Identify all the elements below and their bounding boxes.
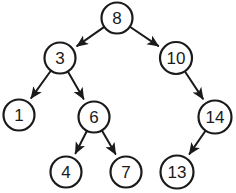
tree-canvas: 831016144713 <box>0 0 236 193</box>
tree-node-6: 6 <box>79 102 110 133</box>
binary-tree-diagram: 831016144713 <box>0 0 236 193</box>
tree-node-1: 1 <box>4 100 35 131</box>
tree-node-8: 8 <box>102 3 133 34</box>
node-label-1: 1 <box>14 106 23 125</box>
tree-node-10: 10 <box>160 42 192 74</box>
tree-node-7: 7 <box>111 157 142 188</box>
node-label-3: 3 <box>55 49 64 68</box>
node-label-10: 10 <box>167 49 186 68</box>
tree-node-14: 14 <box>199 101 232 134</box>
tree-edge-14-to-13 <box>190 131 206 154</box>
tree-node-13: 13 <box>161 156 194 189</box>
node-label-14: 14 <box>206 108 225 127</box>
node-label-6: 6 <box>89 108 98 127</box>
nodes-group: 831016144713 <box>4 3 232 189</box>
tree-node-4: 4 <box>51 157 82 188</box>
tree-edge-10-to-14 <box>185 72 203 99</box>
tree-edge-8-to-3 <box>77 27 104 46</box>
tree-edge-6-to-4 <box>76 131 87 153</box>
node-label-13: 13 <box>168 163 187 182</box>
tree-edge-8-to-10 <box>130 27 158 46</box>
tree-node-3: 3 <box>45 43 76 74</box>
tree-edge-6-to-7 <box>102 131 115 154</box>
tree-edge-3-to-6 <box>68 72 84 99</box>
node-label-4: 4 <box>61 163 70 182</box>
tree-edge-3-to-1 <box>31 71 50 98</box>
node-label-7: 7 <box>121 163 130 182</box>
node-label-8: 8 <box>112 9 121 28</box>
